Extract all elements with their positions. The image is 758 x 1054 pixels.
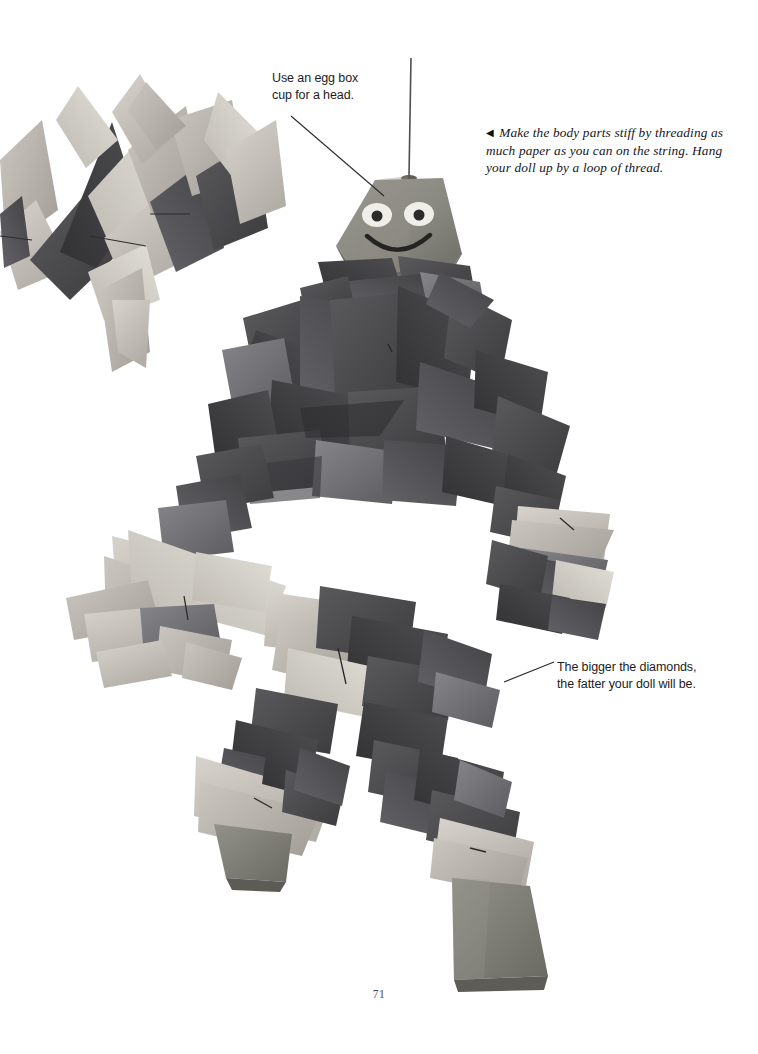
right-arm bbox=[486, 454, 614, 640]
right-foot-egg-box-cup bbox=[452, 878, 548, 992]
annotation-egg-box-head: Use an egg box cup for a head. bbox=[272, 70, 358, 104]
annotation-diamonds-line-2: the fatter your doll will be. bbox=[557, 676, 696, 693]
annotation-head-line-1: Use an egg box bbox=[272, 70, 358, 87]
annotation-head-line-2: cup for a head. bbox=[272, 87, 358, 104]
main-caption: ◀Make the body parts stiff by threading … bbox=[486, 124, 748, 177]
caption-line-2: much paper as you can on the string. Han… bbox=[486, 143, 722, 158]
left-triangle-marker-icon: ◀ bbox=[486, 127, 494, 138]
annotation-diamonds-line-1: The bigger the diamonds, bbox=[557, 659, 696, 676]
caption-line-1: Make the body parts stiff by threading a… bbox=[499, 125, 723, 140]
caption-line-3: your doll up by a loop of thread. bbox=[486, 160, 663, 175]
hanging-thread bbox=[409, 58, 411, 176]
left-arm bbox=[66, 444, 286, 690]
paper-diamond-strand-top-left bbox=[0, 74, 286, 372]
left-foot-egg-box-cup bbox=[214, 824, 292, 892]
page-number: 71 bbox=[0, 988, 758, 1000]
annotation-bigger-diamonds: The bigger the diamonds, the fatter your… bbox=[557, 659, 696, 693]
book-page: Use an egg box cup for a head. The bigge… bbox=[0, 0, 758, 1054]
